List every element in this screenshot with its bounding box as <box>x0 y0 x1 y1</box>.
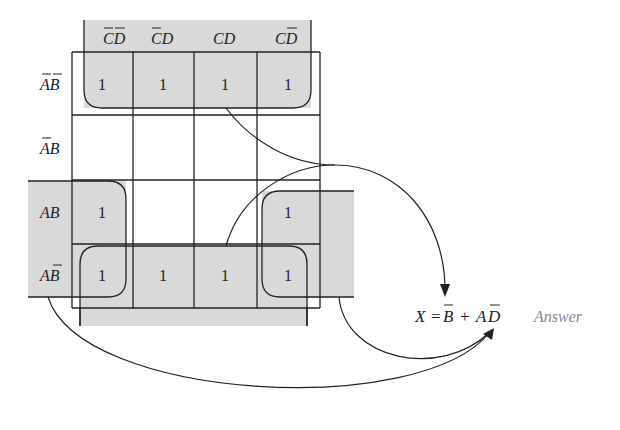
cell-3-3: 1 <box>284 267 292 284</box>
eq-term2-d: D <box>487 307 501 326</box>
answer-label: Answer <box>533 308 583 325</box>
row-header-1: AB <box>39 140 60 157</box>
row-header-3: AB <box>39 267 60 284</box>
col-header-0: CD <box>103 30 126 47</box>
row-header-2: AB <box>39 204 60 221</box>
arrow-head-b <box>440 284 450 297</box>
cell-0-2: 1 <box>221 76 229 93</box>
cell-3-0: 1 <box>98 267 106 284</box>
col-header-3: CD <box>275 30 298 47</box>
cell-3-2: 1 <box>221 267 229 284</box>
cell-0-3: 1 <box>284 76 292 93</box>
eq-lhs: X <box>414 307 426 326</box>
arrow-top-to-merge <box>226 108 335 165</box>
cell-2-3: 1 <box>284 204 292 221</box>
result-equation: X = B + A D Answer <box>414 305 583 326</box>
karnaugh-map-diagram: CD CD CD CD AB AB AB AB 1 1 1 1 1 1 1 1 … <box>0 0 620 430</box>
col-header-1: CD <box>151 30 174 47</box>
eq-term2-a: A <box>475 307 487 326</box>
eq-equals: = <box>431 307 441 326</box>
col-header-2: CD <box>213 30 236 47</box>
eq-plus: + <box>460 307 470 326</box>
cell-2-0: 1 <box>98 204 106 221</box>
cell-3-1: 1 <box>159 267 167 284</box>
cell-0-1: 1 <box>159 76 167 93</box>
shaded-groups <box>28 20 354 326</box>
eq-term1: B <box>443 307 454 326</box>
row-header-0: AB <box>39 76 60 93</box>
cell-0-0: 1 <box>98 76 106 93</box>
